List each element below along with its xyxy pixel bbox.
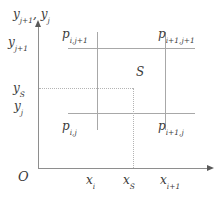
projection-line-horizontal	[39, 88, 133, 89]
y-axis-label-sub-1: j+1	[20, 16, 33, 25]
grid-line-left	[97, 32, 98, 130]
bilinear-interpolation-figure: yj+1, yj O yj+1 yS yj xi xS xi+1 pi,j+1 …	[0, 0, 219, 197]
point-label-i-j-plus-1: pi,j+1	[62, 28, 88, 40]
point-top-left-base: p	[62, 27, 70, 41]
y-tick-top-base: y	[8, 35, 15, 49]
y-tick-top-sub: j+1	[15, 44, 28, 53]
x-tick-s-base: x	[123, 173, 130, 187]
point-bottom-right-base: p	[158, 119, 166, 133]
y-tick-label-j: yj	[14, 100, 23, 112]
point-bottom-left-sub: i,j	[70, 128, 77, 137]
x-tick-right-sub: i+1	[167, 182, 180, 191]
y-axis-line	[38, 26, 39, 169]
x-tick-left-base: x	[86, 173, 93, 187]
x-tick-right-base: x	[160, 173, 167, 187]
grid-line-top	[68, 48, 195, 49]
y-axis-label-sub-2: j	[47, 16, 49, 25]
x-tick-label-s: xS	[123, 174, 135, 186]
point-label-i-plus-1-j-plus-1: pi+1,j+1	[158, 28, 195, 40]
point-bottom-left-base: p	[62, 119, 70, 133]
y-tick-bot-base: y	[14, 99, 21, 113]
y-tick-bot-sub: j	[21, 108, 23, 117]
x-axis-arrowhead-icon	[207, 165, 214, 171]
point-label-i-j: pi,j	[62, 120, 77, 132]
point-top-right-sub: i+1,j+1	[166, 36, 195, 45]
grid-line-bottom	[68, 113, 195, 114]
x-tick-label-i: xi	[86, 174, 95, 186]
interpolation-point-label-s: S	[136, 66, 144, 78]
origin-label: O	[18, 170, 29, 183]
projection-line-vertical	[133, 88, 134, 168]
grid-line-right	[165, 32, 166, 130]
y-tick-label-s: yS	[13, 82, 25, 94]
point-top-right-base: p	[158, 27, 166, 41]
x-tick-label-i-plus-1: xi+1	[160, 174, 180, 186]
y-axis-label-base-1: y	[13, 7, 20, 21]
x-tick-s-sub: S	[130, 182, 135, 191]
point-bottom-right-sub: i+1,j	[166, 128, 184, 137]
y-axis-label: yj+1, yj	[13, 8, 50, 20]
x-tick-left-sub: i	[93, 182, 95, 191]
y-axis-label-separator: ,	[33, 7, 41, 21]
y-tick-label-j-plus-1: yj+1	[8, 36, 28, 48]
point-top-left-sub: i,j+1	[70, 36, 88, 45]
y-axis-arrowhead-icon	[35, 20, 41, 27]
x-axis-line	[38, 168, 210, 169]
point-label-i-plus-1-j: pi+1,j	[158, 120, 184, 132]
y-tick-s-base: y	[13, 81, 20, 95]
